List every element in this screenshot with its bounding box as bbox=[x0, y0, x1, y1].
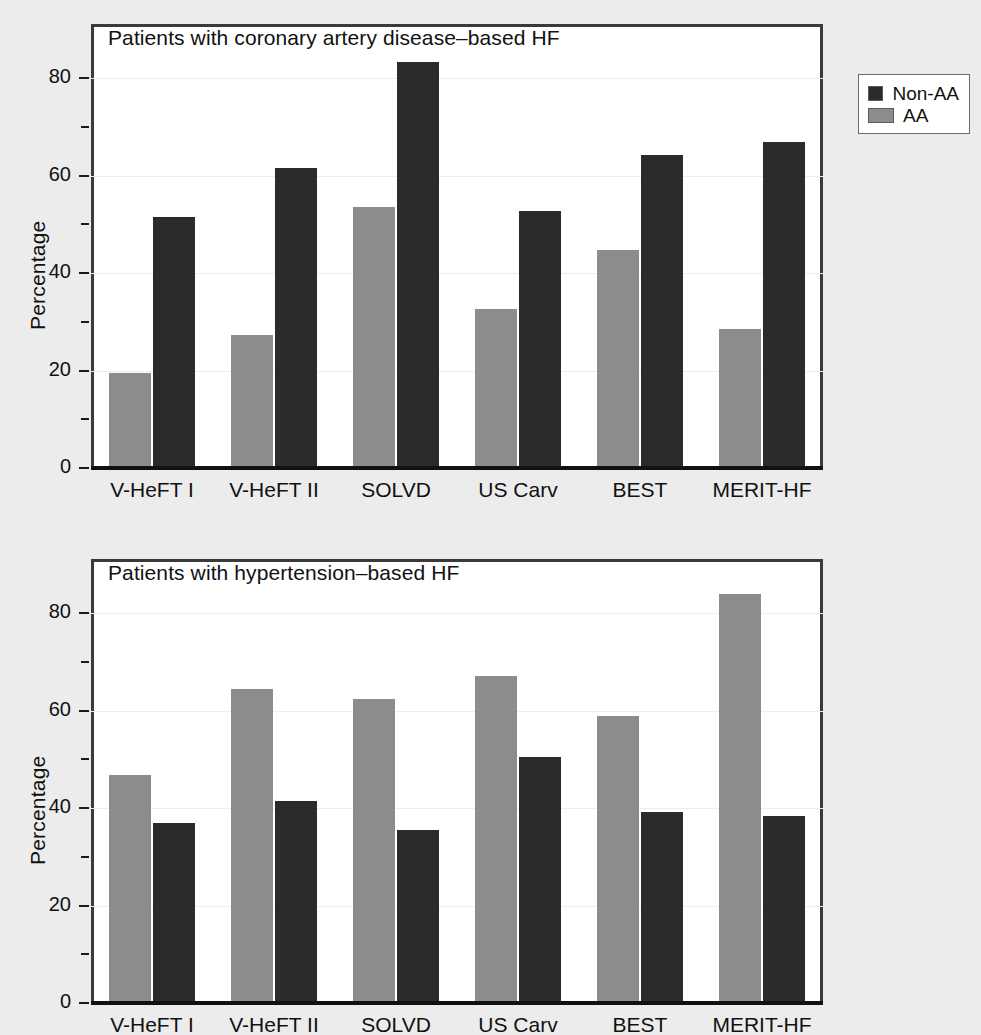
legend-label-aa: AA bbox=[903, 106, 928, 125]
bar-merit-hf-non-aa bbox=[763, 816, 805, 1003]
bar-us-carv-aa bbox=[475, 676, 517, 1003]
panel-1-title: Patients with hypertension–based HF bbox=[108, 561, 459, 585]
y-tick-minor-70 bbox=[81, 661, 89, 663]
gridline-20 bbox=[91, 371, 823, 372]
legend-swatch-aa-icon bbox=[868, 108, 894, 123]
y-tick-major-80 bbox=[79, 612, 89, 614]
gridline-60 bbox=[91, 176, 823, 177]
panel-0-title: Patients with coronary artery disease–ba… bbox=[108, 26, 560, 50]
y-axis-label-40: 40 bbox=[20, 795, 71, 818]
bar-best-non-aa bbox=[641, 812, 683, 1003]
bar-v-heft-i-non-aa bbox=[153, 823, 195, 1003]
y-tick-major-80 bbox=[79, 77, 89, 79]
bar-best-aa bbox=[597, 716, 639, 1003]
x-axis-label-solvd: SOLVD bbox=[335, 478, 457, 502]
y-axis-label-80: 80 bbox=[20, 600, 71, 623]
y-tick-major-0 bbox=[79, 467, 89, 469]
y-axis-label-40: 40 bbox=[20, 260, 71, 283]
bar-best-aa bbox=[597, 250, 639, 468]
bar-merit-hf-aa bbox=[719, 329, 761, 468]
x-axis-label-v-heft-ii: V-HeFT II bbox=[213, 1013, 335, 1035]
x-axis-label-best: BEST bbox=[579, 478, 701, 502]
legend-item-aa: AA bbox=[868, 104, 959, 126]
y-tick-minor-50 bbox=[81, 223, 89, 225]
bar-solvd-aa bbox=[353, 207, 395, 468]
y-axis-label-20: 20 bbox=[20, 358, 71, 381]
y-axis-label-0: 0 bbox=[20, 455, 71, 478]
panel-0-plot-area bbox=[91, 24, 823, 468]
x-axis-label-v-heft-i: V-HeFT I bbox=[91, 478, 213, 502]
y-tick-minor-70 bbox=[81, 126, 89, 128]
y-tick-minor-10 bbox=[81, 418, 89, 420]
y-axis-label-0: 0 bbox=[20, 990, 71, 1013]
figure-root: Non-AA AA Percentage Patients with coron… bbox=[0, 0, 981, 1035]
y-axis-label-20: 20 bbox=[20, 893, 71, 916]
y-tick-minor-30 bbox=[81, 321, 89, 323]
y-tick-minor-30 bbox=[81, 856, 89, 858]
bar-merit-hf-non-aa bbox=[763, 142, 805, 468]
gridline-40 bbox=[91, 273, 823, 274]
bar-v-heft-i-aa bbox=[109, 373, 151, 468]
bar-solvd-aa bbox=[353, 699, 395, 1003]
legend-swatch-non-aa-icon bbox=[868, 86, 883, 101]
gridline-80 bbox=[91, 78, 823, 79]
bar-us-carv-non-aa bbox=[519, 757, 561, 1003]
gridline-60 bbox=[91, 711, 823, 712]
x-axis-label-us-carv: US Carv bbox=[457, 478, 579, 502]
x-axis-label-best: BEST bbox=[579, 1013, 701, 1035]
panel-hypertension: Percentage Patients with hypertension–ba… bbox=[0, 535, 830, 1035]
bar-v-heft-ii-aa bbox=[231, 689, 273, 1003]
bar-best-non-aa bbox=[641, 155, 683, 468]
y-tick-major-20 bbox=[79, 370, 89, 372]
bar-v-heft-ii-non-aa bbox=[275, 801, 317, 1003]
x-axis-label-v-heft-i: V-HeFT I bbox=[91, 1013, 213, 1035]
x-axis-label-v-heft-ii: V-HeFT II bbox=[213, 478, 335, 502]
legend: Non-AA AA bbox=[858, 74, 970, 134]
panel-0-x-axis-line bbox=[91, 466, 823, 470]
y-tick-minor-50 bbox=[81, 758, 89, 760]
panel-1-frame-left bbox=[91, 559, 94, 1003]
y-tick-major-40 bbox=[79, 272, 89, 274]
legend-label-non-aa: Non-AA bbox=[892, 84, 959, 103]
panel-1-frame-right bbox=[820, 559, 823, 1003]
bar-us-carv-non-aa bbox=[519, 211, 561, 468]
y-tick-major-60 bbox=[79, 710, 89, 712]
bar-us-carv-aa bbox=[475, 309, 517, 468]
bar-solvd-non-aa bbox=[397, 62, 439, 468]
x-axis-label-merit-hf: MERIT-HF bbox=[701, 1013, 823, 1035]
bar-solvd-non-aa bbox=[397, 830, 439, 1003]
bar-v-heft-i-non-aa bbox=[153, 217, 195, 468]
x-axis-label-us-carv: US Carv bbox=[457, 1013, 579, 1035]
y-tick-major-0 bbox=[79, 1002, 89, 1004]
gridline-20 bbox=[91, 906, 823, 907]
y-axis-label-60: 60 bbox=[20, 163, 71, 186]
gridline-80 bbox=[91, 613, 823, 614]
y-tick-major-40 bbox=[79, 807, 89, 809]
y-tick-minor-10 bbox=[81, 953, 89, 955]
bar-v-heft-ii-aa bbox=[231, 335, 273, 468]
gridline-40 bbox=[91, 808, 823, 809]
y-tick-major-20 bbox=[79, 905, 89, 907]
panel-1-x-axis-line bbox=[91, 1001, 823, 1005]
legend-item-non-aa: Non-AA bbox=[868, 82, 959, 104]
panel-coronary-artery-disease: Percentage Patients with coronary artery… bbox=[0, 0, 830, 500]
bar-v-heft-i-aa bbox=[109, 775, 151, 1003]
bar-v-heft-ii-non-aa bbox=[275, 168, 317, 468]
y-axis-label-60: 60 bbox=[20, 698, 71, 721]
panel-0-frame-left bbox=[91, 24, 94, 468]
panel-1-plot-area bbox=[91, 559, 823, 1003]
y-axis-label-80: 80 bbox=[20, 65, 71, 88]
panel-0-frame-right bbox=[820, 24, 823, 468]
bar-merit-hf-aa bbox=[719, 594, 761, 1004]
y-tick-major-60 bbox=[79, 175, 89, 177]
x-axis-label-merit-hf: MERIT-HF bbox=[701, 478, 823, 502]
x-axis-label-solvd: SOLVD bbox=[335, 1013, 457, 1035]
